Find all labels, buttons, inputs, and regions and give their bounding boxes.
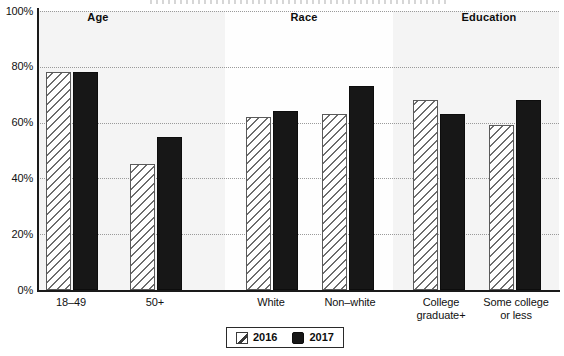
bar-2016-some-college-or-less	[489, 125, 514, 290]
bar-2017-some-college-or-less	[516, 100, 541, 290]
y-tick-label-60: 60%	[0, 117, 33, 128]
gridline-40	[38, 178, 559, 179]
legend-label-2017: 2017	[309, 332, 333, 343]
bar-2016-18-49	[46, 72, 71, 290]
group-header-education: Education	[439, 11, 539, 23]
x-tick-label-18-49: 18–49	[41, 296, 101, 309]
legend: 2016 2017	[226, 327, 344, 348]
x-tick-label-college-graduate: College graduate+	[404, 296, 478, 322]
bar-2016-non-white	[322, 114, 347, 290]
y-tick-label-0: 0%	[0, 285, 33, 296]
bar-2017-18-49	[73, 72, 98, 290]
y-tick-label-80: 80%	[0, 61, 33, 72]
legend-item-2017: 2017	[292, 332, 333, 344]
group-header-race: Race	[264, 11, 344, 23]
x-tick-label-50-plus: 50+	[125, 296, 185, 309]
legend-label-2016: 2016	[253, 332, 277, 343]
filled-square-icon	[292, 332, 304, 344]
group-header-age: Age	[58, 11, 138, 23]
x-axis-line	[37, 290, 560, 292]
bar-2016-white	[246, 117, 271, 290]
y-tick-label-40: 40%	[0, 173, 33, 184]
gridline-20	[38, 234, 559, 235]
x-tick-label-non-white: Non–white	[313, 296, 387, 309]
x-tick-label-some-college: Some college or less	[474, 296, 558, 322]
hatched-square-icon	[236, 332, 248, 344]
y-tick-label-20: 20%	[0, 229, 33, 240]
bar-2016-college-graduate	[413, 100, 438, 290]
bar-2016-50-plus	[130, 164, 155, 290]
scan-artifact-strip	[150, 0, 450, 4]
y-tick-label-100: 100%	[0, 6, 33, 17]
bar-2017-non-white	[349, 86, 374, 290]
legend-item-2016: 2016	[236, 332, 277, 344]
bar-chart: 100% 80% 60% 40% 20% 0% Age Race Educati…	[0, 0, 564, 356]
gridline-80	[38, 67, 559, 68]
y-axis-line	[37, 8, 39, 292]
bar-2017-50-plus	[157, 137, 182, 291]
plot-area	[38, 11, 559, 290]
gridline-60	[38, 123, 559, 124]
bar-2017-white	[273, 111, 298, 290]
bar-2017-college-graduate	[440, 114, 465, 290]
x-tick-label-white: White	[241, 296, 301, 309]
